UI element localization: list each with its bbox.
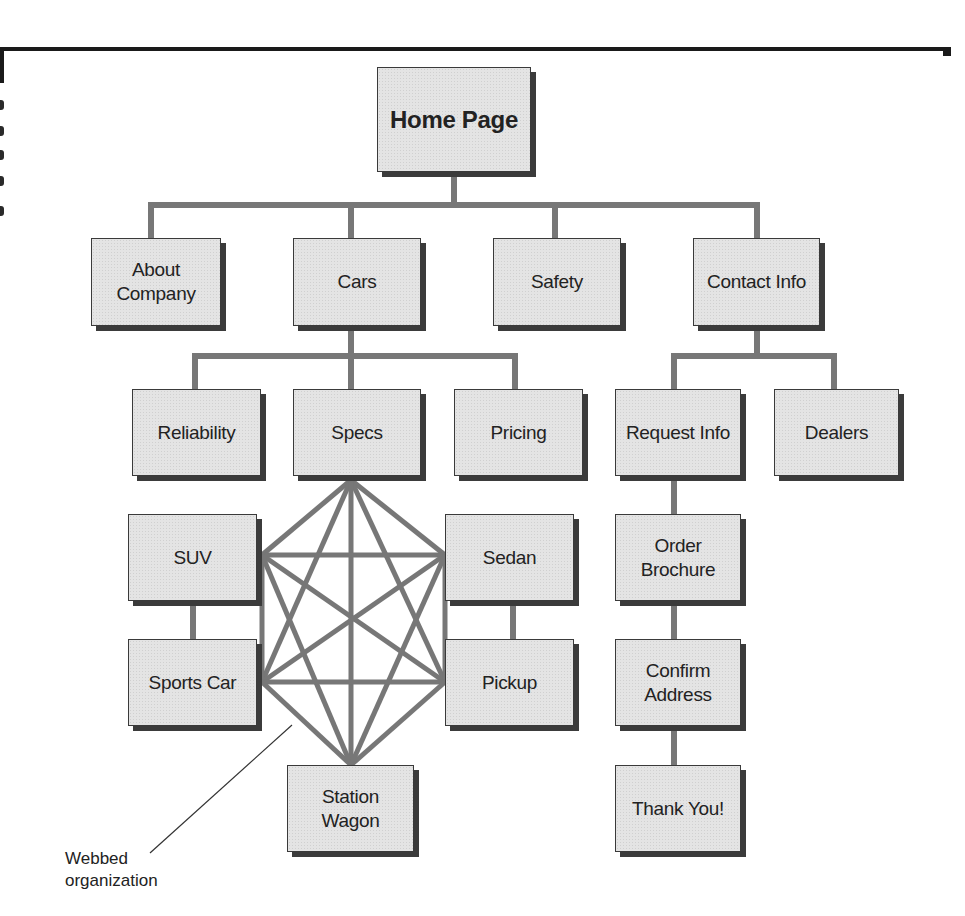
node-sedan: Sedan: [445, 514, 574, 601]
node-label: Reliability: [157, 421, 235, 445]
node-dealers: Dealers: [774, 389, 899, 476]
node-reliability: Reliability: [132, 389, 261, 476]
node-label: Dealers: [805, 421, 868, 445]
web-connector-specs-suv: [262, 480, 351, 555]
node-specs: Specs: [293, 389, 421, 476]
tree-connector: [195, 356, 515, 389]
node-pricing: Pricing: [454, 389, 583, 476]
node-label: Request Info: [626, 421, 730, 445]
tree-connector: [674, 356, 834, 389]
node-label: Specs: [331, 421, 382, 445]
web-connector-specs-sedan: [351, 480, 445, 555]
node-label: Pickup: [482, 671, 537, 695]
node-wagon: Station Wagon: [287, 765, 414, 852]
web-connector-sports-wagon: [262, 682, 351, 765]
node-label: Contact Info: [707, 270, 806, 294]
node-label: Sports Car: [149, 671, 237, 695]
node-suv: SUV: [128, 514, 257, 601]
node-label: Order Brochure: [641, 534, 716, 582]
node-home: Home Page: [377, 67, 531, 172]
node-label: Safety: [531, 270, 583, 294]
node-pickup: Pickup: [445, 639, 574, 726]
node-label: Home Page: [390, 108, 518, 132]
node-order: Order Brochure: [615, 514, 741, 601]
tree-connector: [151, 205, 757, 238]
callout-leader-line: [150, 725, 292, 853]
node-thanks: Thank You!: [615, 765, 741, 852]
node-sports: Sports Car: [128, 639, 257, 726]
callout-leader: [150, 725, 292, 853]
node-label: Sedan: [483, 546, 536, 570]
node-label: Pricing: [491, 421, 547, 445]
node-label: Thank You!: [632, 797, 724, 821]
node-label: SUV: [173, 546, 211, 570]
web-connectors: [262, 480, 445, 765]
node-request: Request Info: [615, 389, 741, 476]
node-about: About Company: [91, 238, 221, 326]
node-label: Confirm Address: [644, 659, 712, 707]
node-confirm: Confirm Address: [615, 639, 741, 726]
webbed-organization-label: Webbed organization: [65, 848, 158, 892]
node-safety: Safety: [493, 238, 621, 326]
node-label: Cars: [338, 270, 377, 294]
node-contact: Contact Info: [693, 238, 820, 326]
node-label: Station Wagon: [322, 785, 380, 833]
node-cars: Cars: [293, 238, 421, 326]
site-structure-diagram: Home PageAbout CompanyCarsSafetyContact …: [0, 0, 965, 916]
web-connector-pickup-wagon: [351, 682, 445, 765]
node-label: About Company: [116, 258, 195, 306]
